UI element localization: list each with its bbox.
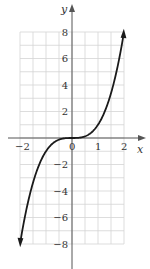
- y-tick-label: −8: [53, 239, 68, 250]
- y-tick-label: −4: [53, 186, 68, 197]
- y-tick-label: 8: [62, 27, 68, 38]
- x-tick-label: 0: [69, 141, 75, 152]
- y-tick-label: −2: [53, 159, 68, 170]
- y-axis-label: y: [60, 3, 68, 16]
- y-tick-label: 4: [62, 80, 68, 91]
- x-tick-label: −2: [15, 141, 30, 152]
- cubic-function-graph: −20128642−2−4−6−8 x y: [0, 0, 150, 269]
- y-tick-label: 2: [62, 106, 68, 117]
- y-axis-arrow-icon: [69, 4, 75, 12]
- curve-arrow-up-icon: [121, 29, 127, 39]
- y-tick-label: 6: [62, 53, 68, 64]
- x-tick-label: 2: [121, 141, 127, 152]
- curve-arrow-down-icon: [18, 238, 24, 248]
- x-tick-label: 1: [95, 141, 101, 152]
- axes: [8, 4, 146, 269]
- x-axis-arrow-icon: [138, 135, 146, 141]
- x-axis-label: x: [137, 143, 144, 156]
- y-tick-label: −6: [53, 212, 68, 223]
